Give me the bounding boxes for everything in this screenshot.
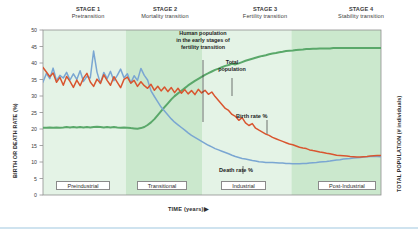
human-population-annotation-line3: fertility transition (150, 44, 256, 51)
stage-band-1 (43, 30, 126, 195)
y-tick-45: 45 (25, 44, 37, 50)
x-axis-title: TIME (years)▶ (168, 205, 209, 212)
y-axis-title-left: BIRTH OR DEATH RATE (%) (12, 103, 18, 178)
y-tick-5: 5 (25, 176, 37, 182)
y-axis-title-right: TOTAL POPULATION (# individuals) (396, 96, 402, 192)
total-population-annotation-line2: population (203, 66, 261, 73)
y-tick-20: 20 (25, 126, 37, 132)
total-population-annotation-line1: Total (203, 59, 261, 66)
era-box-transitional: Transitional (137, 181, 187, 190)
x-axis-arrow-icon: ▶ (204, 206, 209, 212)
era-box-post-industrial: Post-Industrial (318, 181, 376, 190)
human-population-annotation-line2: in the early stages of (150, 37, 256, 44)
y-tick-25: 25 (25, 110, 37, 116)
human-population-annotation: Human population in the early stages of … (150, 30, 256, 51)
stage-band-2 (126, 30, 203, 195)
human-population-annotation-line1: Human population (150, 30, 256, 37)
demographic-transition-figure: STAGE 1 Pretransition STAGE 2 Mortality … (0, 0, 418, 229)
total-population-annotation: Total population (203, 59, 261, 73)
y-tick-10: 10 (25, 159, 37, 165)
birth-rate-series-label: Birth rate % (236, 113, 267, 119)
death-rate-series-label: Death rate % (219, 167, 253, 173)
y-tick-30: 30 (25, 93, 37, 99)
y-tick-35: 35 (25, 77, 37, 83)
footer-divider (0, 227, 418, 229)
era-box-preindustrial: Preindustrial (56, 181, 110, 190)
x-axis-title-text: TIME (years) (168, 206, 204, 212)
y-tick-40: 40 (25, 60, 37, 66)
y-axis-ticks-left (40, 30, 44, 195)
era-box-industrial: Industrial (221, 181, 266, 190)
stage-band-4 (291, 30, 381, 195)
y-tick-50: 50 (25, 27, 37, 33)
y-tick-0: 0 (25, 192, 37, 198)
y-tick-15: 15 (25, 143, 37, 149)
